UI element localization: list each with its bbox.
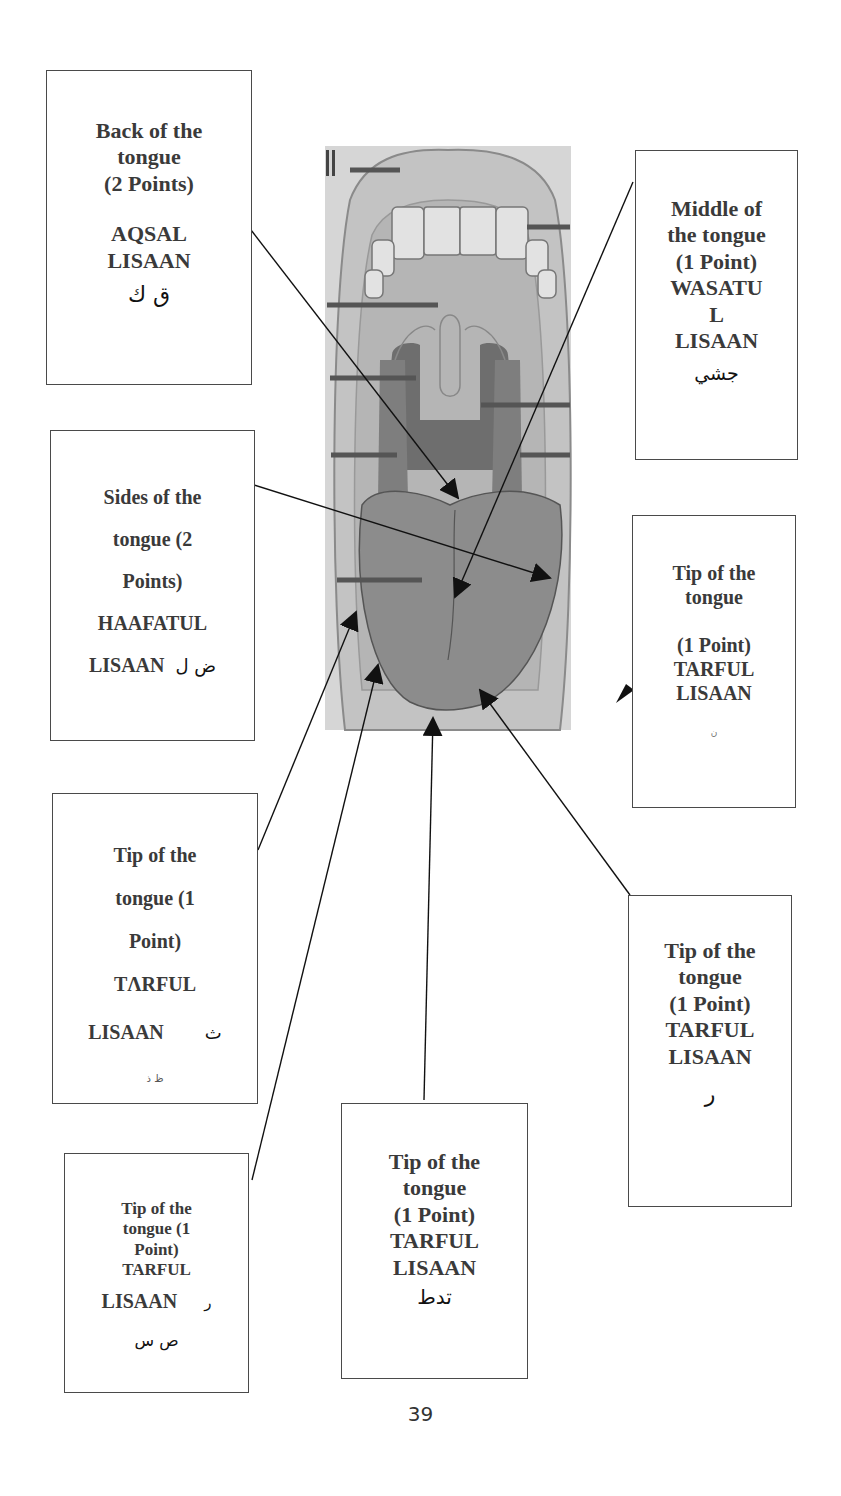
label-title: tongue bbox=[685, 585, 743, 609]
arabic-letters: ن bbox=[711, 727, 718, 738]
label-box-tip-right-lower: Tip of the tongue (1 Point) TARFUL LISAA… bbox=[628, 895, 792, 1207]
label-term: L bbox=[709, 302, 724, 328]
label-title: the tongue bbox=[667, 222, 765, 248]
label-title: tongue (2 bbox=[113, 518, 192, 560]
label-point-count: Point) bbox=[129, 920, 181, 963]
arrow-tip-bottom-center bbox=[424, 718, 433, 1100]
page-number: 39 bbox=[0, 1402, 841, 1426]
label-point-count: (1 Point) bbox=[677, 633, 751, 657]
label-term: TΛRFUL bbox=[114, 963, 196, 1006]
label-point-count: (1 Point) bbox=[676, 249, 757, 275]
arabic-letters: جشي bbox=[694, 362, 739, 385]
arabic-letters: ر bbox=[705, 1082, 716, 1108]
label-box-tip-bottom-left: Tip of the tongue (1 Point) TARFUL LISAA… bbox=[64, 1153, 249, 1393]
label-title: Tip of the bbox=[673, 561, 756, 585]
label-term: LISAAN bbox=[668, 1044, 751, 1070]
label-title: Tip of the bbox=[114, 834, 197, 877]
label-box-tip-left-mid: Tip of the tongue (1 Point) TΛRFUL LISAA… bbox=[52, 793, 258, 1104]
label-term: HAAFATUL bbox=[98, 602, 207, 644]
arabic-letters: ث bbox=[205, 1022, 222, 1043]
label-point-count: (1 Point) bbox=[394, 1202, 475, 1228]
label-title: Back of the bbox=[96, 118, 202, 144]
label-box-tip-right-upper: Tip of the tongue (1 Point) TARFUL LISAA… bbox=[632, 515, 796, 808]
label-term: LISAAN bbox=[393, 1255, 476, 1281]
label-term: TARFUL bbox=[122, 1260, 191, 1280]
label-box-tip-bottom-center: Tip of the tongue (1 Point) TARFUL LISAA… bbox=[341, 1103, 528, 1379]
label-title: tongue bbox=[403, 1175, 467, 1201]
label-term: WASATU bbox=[670, 275, 763, 301]
label-point-count: (2 Points) bbox=[104, 171, 194, 197]
label-title: Tip of the bbox=[664, 938, 755, 964]
label-term: TARFUL bbox=[674, 657, 755, 681]
arabic-letters: ر bbox=[204, 1294, 211, 1312]
mouth-illustration bbox=[325, 146, 571, 730]
label-term: LISAAN bbox=[88, 1021, 164, 1043]
label-term: TARFUL bbox=[390, 1228, 479, 1254]
arabic-letters: ص س bbox=[135, 1331, 179, 1350]
label-term: AQSAL bbox=[111, 221, 187, 247]
arabic-letters: ض ل bbox=[176, 655, 217, 676]
label-term: LISAAN bbox=[107, 248, 190, 274]
label-title: tongue bbox=[117, 144, 181, 170]
label-title: Tip of the bbox=[389, 1149, 480, 1175]
label-term: LISAAN bbox=[676, 681, 752, 705]
label-box-middle-of-tongue: Middle of the tongue (1 Point) WASATU L … bbox=[635, 150, 798, 460]
label-term: LISAAN bbox=[102, 1290, 178, 1312]
label-title: tongue (1 bbox=[115, 877, 194, 920]
label-term: LISAAN bbox=[675, 328, 758, 354]
arabic-letters: ظ ذ bbox=[147, 1073, 164, 1085]
label-point-count: (1 Point) bbox=[669, 991, 750, 1017]
label-point-count: Point) bbox=[134, 1240, 178, 1260]
label-term: TARFUL bbox=[666, 1017, 755, 1043]
label-title: tongue bbox=[678, 964, 742, 990]
label-term: LISAAN bbox=[89, 654, 165, 676]
label-title: Sides of the bbox=[104, 476, 202, 518]
label-title: tongue (1 bbox=[123, 1219, 191, 1239]
label-point-count: Points) bbox=[123, 560, 183, 602]
label-title: Tip of the bbox=[121, 1199, 192, 1219]
arabic-letters: ق ك bbox=[128, 282, 170, 308]
label-title: Middle of bbox=[671, 196, 762, 222]
label-box-back-of-tongue: Back of the tongue (2 Points) AQSAL LISA… bbox=[46, 70, 252, 385]
label-box-sides-of-tongue: Sides of the tongue (2 Points) HAAFATUL … bbox=[50, 430, 255, 741]
arabic-letters: تدط bbox=[417, 1285, 452, 1309]
